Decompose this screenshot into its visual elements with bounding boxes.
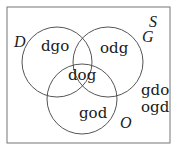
region-all-three: dog bbox=[68, 66, 97, 84]
set-label-d: D bbox=[13, 33, 26, 50]
region-outside-2: ogd bbox=[141, 98, 170, 116]
region-d-only: dgo bbox=[41, 37, 69, 55]
region-o-only: god bbox=[79, 104, 108, 122]
set-label-o: O bbox=[120, 114, 132, 131]
venn-diagram: S D G O dgo odg dog god gdo ogd bbox=[0, 0, 178, 148]
region-outside-1: gdo bbox=[141, 81, 169, 99]
region-g-only: odg bbox=[100, 39, 129, 57]
circle-g bbox=[73, 27, 143, 97]
set-label-g: G bbox=[142, 28, 154, 45]
